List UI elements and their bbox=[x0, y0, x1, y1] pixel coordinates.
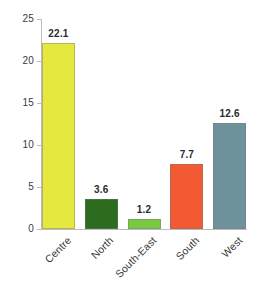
bar[interactable] bbox=[85, 199, 118, 229]
y-axis-tick-label: 25 bbox=[0, 14, 34, 24]
y-axis-tick-label: 0 bbox=[0, 224, 34, 234]
y-axis-tick-label-text: 20 bbox=[4, 56, 34, 66]
bar-value-label: 22.1 bbox=[35, 29, 83, 39]
bar-value-label: 7.7 bbox=[163, 150, 211, 160]
bar-value-label: 12.6 bbox=[206, 109, 254, 119]
y-axis-tick-mark bbox=[37, 61, 41, 62]
y-axis-tick-label-text: 10 bbox=[4, 140, 34, 150]
x-axis-line bbox=[41, 229, 247, 230]
y-axis-tick-mark bbox=[37, 229, 41, 230]
bar-chart: 0510152025 22.13.61.27.712.6 CentreNorth… bbox=[0, 0, 258, 296]
bar-value-label: 3.6 bbox=[77, 185, 125, 195]
y-axis-tick-mark bbox=[37, 103, 41, 104]
y-axis-tick-label: 20 bbox=[0, 56, 34, 66]
y-axis-tick-mark bbox=[37, 187, 41, 188]
bar-value-label: 1.2 bbox=[120, 205, 168, 215]
y-axis-tick-label-text: 25 bbox=[4, 14, 34, 24]
bar[interactable] bbox=[213, 123, 246, 229]
y-axis-tick-label-text: 0 bbox=[4, 224, 34, 234]
y-axis-tick-label-text: 5 bbox=[4, 182, 34, 192]
bar[interactable] bbox=[42, 43, 75, 229]
bar[interactable] bbox=[170, 164, 203, 229]
bar[interactable] bbox=[128, 219, 161, 229]
y-axis-tick-label: 5 bbox=[0, 182, 34, 192]
y-axis-tick-label: 10 bbox=[0, 140, 34, 150]
y-axis-tick-label: 15 bbox=[0, 98, 34, 108]
y-axis-tick-mark bbox=[37, 145, 41, 146]
y-axis-tick-mark bbox=[37, 19, 41, 20]
plot-area: 0510152025 22.13.61.27.712.6 CentreNorth… bbox=[0, 0, 258, 296]
y-axis-tick-label-text: 15 bbox=[4, 98, 34, 108]
